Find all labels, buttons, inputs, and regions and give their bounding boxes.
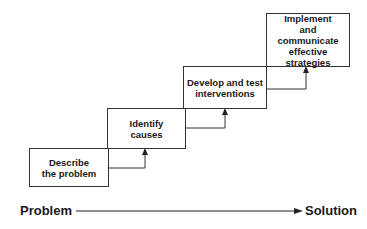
connector-3-4 xyxy=(266,68,306,89)
step-describe-problem: Describe the problem xyxy=(29,148,109,187)
step-label: Develop and test interventions xyxy=(187,77,263,99)
arrow-right-icon xyxy=(294,208,303,214)
connector-1-2 xyxy=(108,150,145,168)
step-label: Implement and communicate effective stra… xyxy=(267,13,349,68)
arrow-up-icon xyxy=(222,108,228,115)
axis-start-label: Problem xyxy=(20,203,72,218)
connector-2-3 xyxy=(185,110,225,128)
step-identify-causes: Identify causes xyxy=(107,108,186,149)
axis-end-label: Solution xyxy=(305,203,357,218)
step-develop-test: Develop and test interventions xyxy=(183,66,267,109)
step-label: Identify causes xyxy=(130,118,164,140)
arrow-up-icon xyxy=(142,148,148,155)
step-label: Describe the problem xyxy=(42,157,96,179)
step-implement-communicate: Implement and communicate effective stra… xyxy=(266,13,350,67)
